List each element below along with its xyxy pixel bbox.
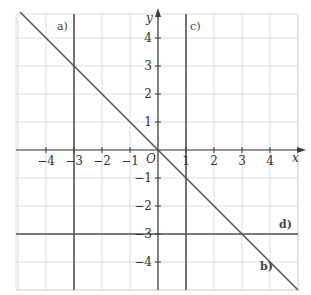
y-tick-label: 2	[144, 87, 152, 101]
graph-line-b	[20, 12, 298, 290]
axes	[16, 8, 306, 290]
x-tick-label: −2	[93, 154, 111, 168]
line-c-label: c)	[190, 20, 200, 33]
y-tick-label: 4	[144, 31, 152, 45]
x-tick-label: 1	[182, 154, 190, 168]
line-d-label: d)	[279, 218, 292, 231]
y-tick-label: 1	[144, 115, 152, 129]
x-tick-label: 4	[266, 154, 274, 168]
origin-label: O	[146, 152, 156, 166]
y-axis-label: y	[145, 11, 153, 25]
y-tick-label: −3	[134, 227, 152, 241]
x-axis-label: x	[292, 151, 299, 165]
y-tick-label: −2	[134, 199, 152, 213]
line-a-label: a)	[57, 20, 68, 33]
x-tick-label: 2	[210, 154, 218, 168]
y-axis-arrow-icon	[155, 8, 161, 17]
graph-lines	[16, 12, 298, 290]
x-tick-label: −1	[121, 154, 139, 168]
y-tick-label: −4	[134, 255, 152, 269]
line-b-label: b)	[260, 260, 273, 273]
x-tick-label: −4	[37, 154, 55, 168]
y-tick-label: 3	[144, 59, 152, 73]
x-tick-label: 3	[238, 154, 246, 168]
coordinate-plane: −4−3−2−11234−4−3−2−11234 y x O a) b) c) …	[0, 0, 311, 295]
y-tick-label: −1	[134, 171, 152, 185]
x-tick-label: −3	[65, 154, 83, 168]
